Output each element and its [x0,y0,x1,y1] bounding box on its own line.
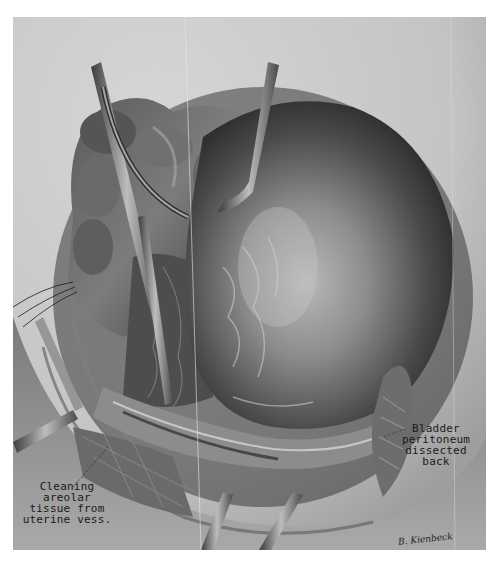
surgical-illustration [13,17,486,550]
illustration-plate [13,17,486,550]
annotation-cleaning-areolar-tissue: Cleaning areolar tissue from uterine ves… [12,481,122,525]
annotation-bladder-peritoneum: Bladder peritoneum dissected back [386,423,486,467]
